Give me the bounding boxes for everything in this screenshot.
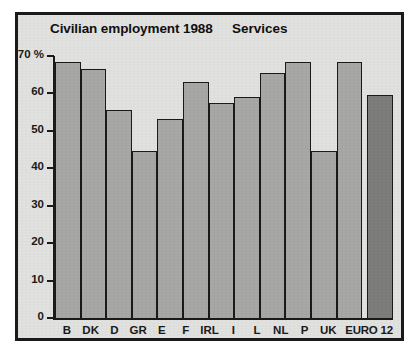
x-label-GR: GR	[126, 324, 150, 336]
x-label-E: E	[150, 324, 174, 336]
bar-EURO-12[interactable]	[367, 95, 393, 318]
bar-F[interactable]	[183, 82, 209, 318]
y-tick-label-30: 30	[31, 197, 44, 212]
x-label-L: L	[245, 324, 269, 336]
bar-slot	[209, 56, 235, 318]
bar-IRL[interactable]	[209, 103, 235, 318]
x-label-IRL: IRL	[198, 324, 222, 336]
chart-title-row: Civilian employment 1988 Services	[18, 21, 401, 41]
bar-slot	[337, 56, 363, 318]
y-tick-label-20: 20	[31, 234, 44, 249]
y-tick-60: 60	[47, 92, 54, 94]
y-tick-label-70: 70 %	[18, 47, 44, 62]
y-tick-label-50: 50	[31, 122, 44, 137]
x-label-B: B	[55, 324, 79, 336]
x-label-F: F	[174, 324, 198, 336]
bar-L[interactable]	[260, 73, 286, 318]
bar-slot	[55, 56, 81, 318]
bar-series	[55, 56, 393, 318]
x-label-P: P	[293, 324, 317, 336]
chart-title: Civilian employment 1988	[50, 21, 213, 36]
bar-slot	[260, 56, 286, 318]
bar-UK[interactable]	[337, 62, 363, 318]
plot-area: 0 10 20 30 40 50 60 70 %	[53, 56, 393, 318]
y-tick-0: 0	[47, 317, 54, 319]
bar-slot	[132, 56, 158, 318]
y-tick-10: 10	[47, 280, 54, 282]
y-tick-20: 20	[47, 242, 54, 244]
bar-slot	[367, 56, 393, 318]
y-tick-label-40: 40	[31, 159, 44, 174]
chart-subtitle: Services	[232, 21, 288, 36]
x-label-UK: UK	[316, 324, 340, 336]
bar-slot	[311, 56, 337, 318]
x-label-EURO-12: EURO 12	[345, 324, 393, 336]
x-label-D: D	[103, 324, 127, 336]
bar-slot	[106, 56, 132, 318]
bar-GR[interactable]	[132, 151, 158, 318]
bar-DK[interactable]	[81, 69, 107, 318]
chart-frame: Civilian employment 1988 Services 0 10 2…	[15, 12, 404, 341]
bar-slot	[81, 56, 107, 318]
bar-I[interactable]	[234, 97, 260, 318]
y-tick-40: 40	[47, 167, 54, 169]
y-tick-70: 70 %	[47, 55, 54, 57]
x-label-DK: DK	[79, 324, 103, 336]
y-tick-label-10: 10	[31, 272, 44, 287]
bar-B[interactable]	[55, 62, 81, 318]
y-tick-label-0: 0	[38, 309, 44, 324]
x-label-I: I	[221, 324, 245, 336]
bar-slot	[234, 56, 260, 318]
bar-slot	[285, 56, 311, 318]
x-axis-labels: B DK D GR E F IRL I L NL P UK EURO 12	[55, 324, 393, 336]
x-label-NL: NL	[269, 324, 293, 336]
y-tick-50: 50	[47, 130, 54, 132]
y-tick-30: 30	[47, 205, 54, 207]
bar-NL[interactable]	[285, 62, 311, 318]
bar-E[interactable]	[157, 119, 183, 318]
x-axis-line	[53, 318, 393, 320]
bar-P[interactable]	[311, 151, 337, 318]
bar-slot	[183, 56, 209, 318]
bar-D[interactable]	[106, 110, 132, 318]
bar-slot	[157, 56, 183, 318]
y-tick-label-60: 60	[31, 84, 44, 99]
